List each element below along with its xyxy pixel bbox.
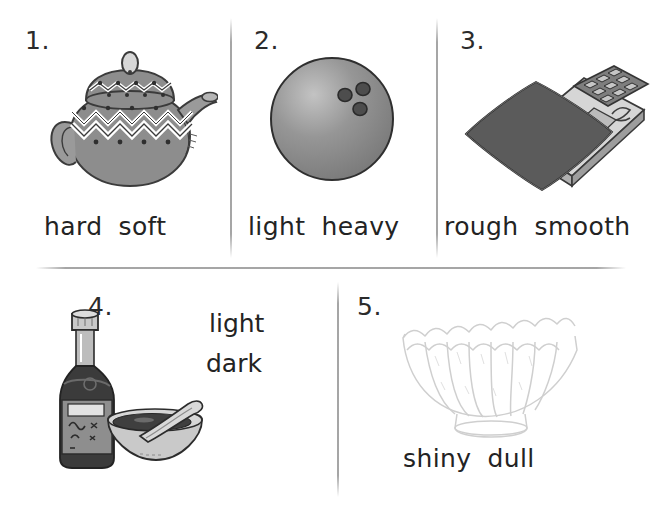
- item-2-choices: lightheavy: [248, 212, 400, 241]
- item-4: 4.: [0, 268, 337, 509]
- item-4-choice-1[interactable]: light: [209, 309, 264, 338]
- bowling-ball-illustration: [268, 55, 398, 185]
- item-5-choice-2[interactable]: dull: [487, 444, 534, 473]
- item-1-choices: hardsoft: [44, 212, 167, 241]
- sandpaper-calculator-illustration: [456, 52, 651, 197]
- item-1-choice-1[interactable]: hard: [44, 212, 102, 241]
- item-2-choice-2[interactable]: heavy: [321, 212, 399, 241]
- item-2: 2. lightheavy: [230, 0, 436, 262]
- worksheet-page: 1.: [0, 0, 670, 509]
- item-5-choices: shinydull: [403, 444, 535, 473]
- item-4-choice-2[interactable]: dark: [206, 349, 262, 378]
- item-3-number: 3.: [460, 26, 485, 55]
- soy-sauce-illustration: [28, 308, 208, 473]
- item-1: 1.: [0, 0, 230, 262]
- item-2-number: 2.: [254, 26, 279, 55]
- teapot-illustration: [38, 50, 218, 200]
- item-5-choice-1[interactable]: shiny: [403, 444, 471, 473]
- item-2-choice-1[interactable]: light: [248, 212, 305, 241]
- item-5-number: 5.: [357, 292, 382, 321]
- item-5: 5.: [337, 268, 670, 509]
- item-3-choice-1[interactable]: rough: [444, 212, 519, 241]
- item-3-choices: roughsmooth: [444, 212, 631, 241]
- item-3-choice-2[interactable]: smooth: [535, 212, 631, 241]
- item-1-choice-2[interactable]: soft: [118, 212, 166, 241]
- item-3: 3.: [436, 0, 670, 262]
- scalloped-glass-bowl-illustration: [395, 316, 595, 441]
